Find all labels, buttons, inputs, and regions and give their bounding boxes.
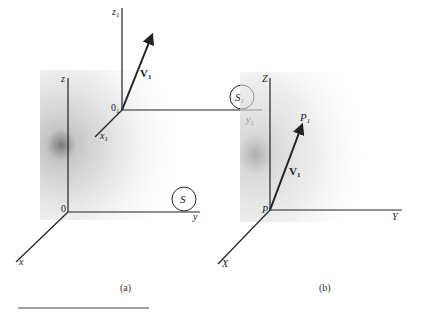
panel-b: Z Y X P P1 V1 (b) [218,72,402,294]
x-label: x [18,256,24,267]
shaded-region-a [40,70,180,220]
caption-a: (a) [120,282,131,294]
Z-label: Z [262,73,268,84]
caption-b: (b) [319,282,331,294]
shaded-region-b [240,72,370,222]
origin-label-a: 0 [61,203,66,214]
X-label: X [221,258,229,269]
origin-P-label: P [261,204,268,215]
vector-v1-label-a: V1 [140,67,152,81]
diagram-canvas: z y x 0 S z1 y1 x1 01 S1 V1 (a) Z Y X P … [0,0,422,318]
y-label: y [192,211,198,222]
z-label: z [60,73,65,84]
Y-label: Y [392,211,399,222]
z1-label: z1 [111,6,119,19]
frame-s-label: S [180,193,186,205]
